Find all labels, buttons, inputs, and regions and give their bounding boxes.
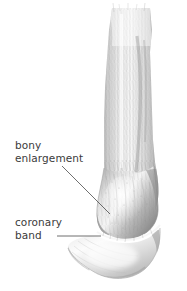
anatomical-figure: bony enlargement coronary band — [0, 0, 187, 291]
coronary-band-label: coronary band — [15, 216, 62, 242]
bony-enlargement-label: bony enlargement — [15, 139, 83, 165]
